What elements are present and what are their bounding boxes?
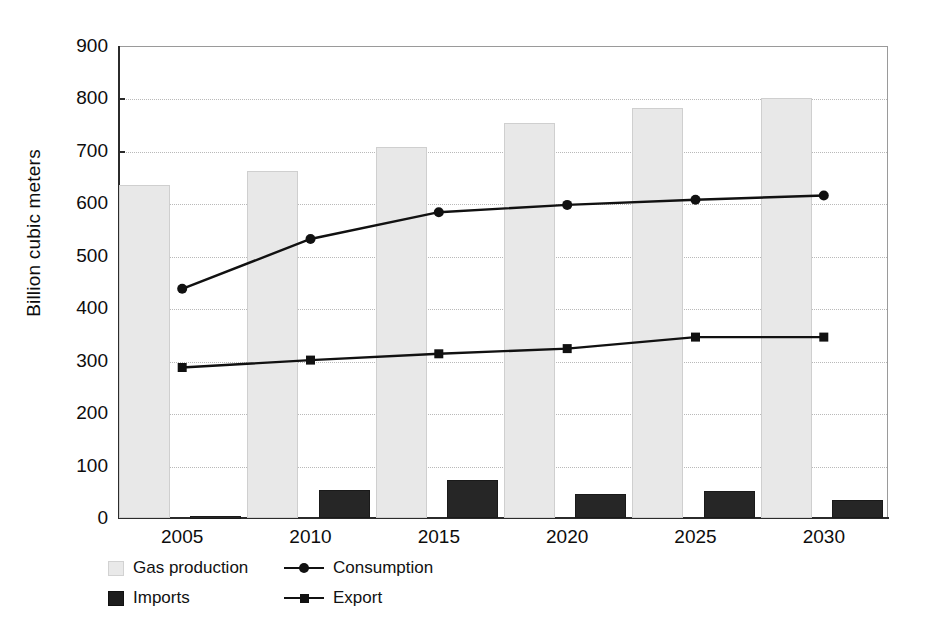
legend-line-marker-export-icon	[284, 591, 324, 605]
bar-gas-production	[376, 147, 427, 518]
legend-label-imports: Imports	[133, 588, 190, 608]
y-axis-tick-label: 100	[56, 455, 108, 477]
y-axis-tick-label: 900	[56, 35, 108, 57]
bar-imports	[447, 480, 498, 518]
legend-line-marker-consumption-icon	[284, 561, 324, 575]
y-axis-tick-label: 300	[56, 350, 108, 372]
x-axis-tick-label: 2015	[375, 526, 503, 548]
legend-item-gas-production: Gas production	[108, 556, 248, 580]
x-axis-tick-label: 2025	[632, 526, 760, 548]
y-axis-tick-label: 400	[56, 297, 108, 319]
bar-imports	[704, 491, 755, 518]
y-axis-tick-mark	[118, 98, 125, 100]
y-axis-tick-label: 500	[56, 245, 108, 267]
y-axis-tick-label: 800	[56, 87, 108, 109]
bar-imports	[190, 516, 241, 519]
y-axis-tick-label: 0	[56, 507, 108, 529]
y-axis-tick-label: 700	[56, 140, 108, 162]
legend-swatch-imports-icon	[108, 591, 124, 606]
bar-imports	[575, 494, 626, 518]
bar-gas-production	[119, 185, 170, 518]
bar-gas-production	[761, 98, 812, 518]
bar-gas-production	[632, 108, 683, 518]
legend-item-consumption: Consumption	[284, 556, 433, 580]
legend-label-export: Export	[333, 588, 382, 608]
legend-label-gas-production: Gas production	[133, 558, 248, 578]
legend-label-consumption: Consumption	[333, 558, 433, 578]
chart-legend: Gas production Consumption Imports Expor…	[108, 556, 528, 612]
bar-imports	[832, 500, 883, 518]
y-axis-tick-label: 200	[56, 402, 108, 424]
y-axis-title: Billion cubic meters	[23, 133, 45, 333]
bar-gas-production	[247, 171, 298, 518]
y-axis-tick-labels: 0100200300400500600700800900	[50, 0, 108, 625]
y-axis-tick-label: 600	[56, 192, 108, 214]
x-axis-tick-label: 2005	[118, 526, 246, 548]
legend-swatch-gas-production-icon	[108, 561, 124, 576]
x-axis-tick-label: 2010	[247, 526, 375, 548]
legend-item-imports: Imports	[108, 586, 190, 610]
x-axis-tick-label: 2020	[503, 526, 631, 548]
bar-gas-production	[504, 123, 555, 518]
legend-item-export: Export	[284, 586, 382, 610]
bar-imports	[319, 490, 370, 518]
x-axis-tick-label: 2030	[760, 526, 888, 548]
gas-balance-chart: Billion cubic meters 0100200300400500600…	[0, 0, 926, 625]
y-axis-tick-mark	[118, 151, 125, 153]
